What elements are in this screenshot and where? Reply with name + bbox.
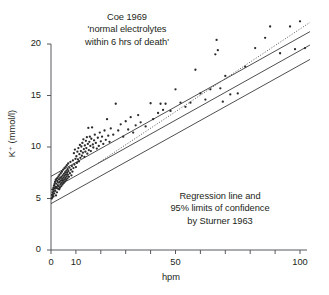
y-axis-ticks: [47, 44, 51, 250]
data-point: [84, 150, 86, 152]
x-tick-label-100: 100: [288, 257, 312, 267]
y-tick-label-15: 15: [19, 90, 41, 100]
y-tick-label-0: 0: [19, 244, 41, 254]
data-point: [164, 103, 166, 105]
data-point: [93, 139, 95, 141]
data-point: [130, 116, 132, 118]
data-point: [82, 138, 84, 140]
data-point: [84, 144, 86, 146]
data-point: [159, 103, 161, 105]
data-point: [72, 167, 74, 169]
data-point: [269, 25, 271, 27]
data-point: [139, 121, 141, 123]
data-point: [224, 75, 226, 77]
data-point: [81, 155, 83, 157]
data-point: [169, 110, 171, 112]
data-point: [108, 141, 110, 143]
source-coe-line-3: within 6 hrs of death': [57, 36, 197, 48]
data-point: [86, 153, 88, 155]
data-point: [73, 152, 75, 154]
data-point: [86, 136, 88, 138]
data-point: [80, 150, 82, 152]
data-point: [174, 88, 176, 90]
source-sturner-line-2: 95% limits of confidence: [140, 202, 300, 214]
data-point: [194, 69, 196, 71]
data-point: [89, 145, 91, 147]
data-point: [69, 161, 71, 163]
data-point: [105, 139, 107, 141]
data-point: [96, 147, 98, 149]
data-point: [199, 92, 201, 94]
data-point: [83, 156, 85, 158]
data-point: [79, 157, 81, 159]
data-point: [189, 102, 191, 104]
data-point: [85, 140, 87, 142]
data-point: [144, 125, 146, 127]
data-point: [149, 102, 151, 104]
y-tick-label-10: 10: [19, 141, 41, 151]
data-point: [125, 120, 127, 122]
data-point: [120, 123, 122, 125]
data-point: [92, 146, 94, 148]
data-point: [294, 48, 296, 50]
data-point: [106, 118, 108, 120]
data-point: [82, 152, 84, 154]
data-point: [122, 136, 124, 138]
x-tick-label-0: 0: [39, 257, 63, 267]
data-point: [137, 114, 139, 116]
data-point: [97, 137, 99, 139]
data-point: [117, 129, 119, 131]
data-point: [90, 138, 92, 140]
data-point: [214, 53, 216, 55]
data-point: [85, 147, 87, 149]
data-point: [72, 159, 74, 161]
upper-95-limit: [51, 32, 310, 177]
data-point: [81, 142, 83, 144]
source-coe-line-1: Coe 1969: [57, 11, 197, 23]
data-point: [107, 135, 109, 137]
data-point: [204, 98, 206, 100]
y-tick-label-5: 5: [19, 193, 41, 203]
data-point: [68, 176, 70, 178]
data-point: [77, 158, 79, 160]
data-point: [88, 149, 90, 151]
data-point: [90, 150, 92, 152]
x-axis-ticks: [51, 250, 300, 254]
annotation-coe-1969: Coe 1969'normal electrolyteswithin 6 hrs…: [57, 11, 197, 48]
data-point: [55, 194, 57, 196]
data-point: [78, 153, 80, 155]
data-point: [78, 160, 80, 162]
data-point: [53, 192, 55, 194]
data-point: [132, 131, 134, 133]
data-point: [91, 126, 93, 128]
data-point: [92, 143, 94, 145]
data-point: [74, 148, 76, 150]
data-point: [184, 106, 186, 108]
source-coe-line-2: 'normal electrolytes: [57, 23, 197, 35]
data-point: [71, 165, 73, 167]
data-point: [71, 171, 73, 173]
data-point: [244, 66, 246, 68]
data-point: [54, 190, 56, 192]
data-point: [87, 143, 89, 145]
data-point: [217, 49, 219, 51]
data-point: [75, 155, 77, 157]
data-point: [264, 37, 266, 39]
data-point: [76, 162, 78, 164]
x-tick-label-50: 50: [164, 257, 188, 267]
data-point: [215, 39, 217, 41]
data-point: [279, 52, 281, 54]
data-point: [74, 158, 76, 160]
data-point: [94, 133, 96, 135]
data-point: [157, 112, 159, 114]
regression-line: [51, 45, 310, 190]
data-point: [103, 129, 105, 131]
data-point: [110, 127, 112, 129]
data-point: [162, 109, 164, 111]
data-point: [219, 87, 221, 89]
data-point: [299, 20, 301, 22]
data-point: [52, 195, 54, 197]
source-sturner-line-1: Regression line and: [140, 190, 300, 202]
data-point: [289, 25, 291, 27]
data-point: [70, 169, 72, 171]
